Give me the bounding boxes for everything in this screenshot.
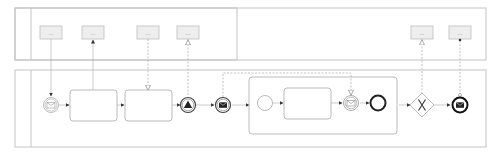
top-box-6[interactable]: ...	[449, 26, 471, 39]
message-end-event[interactable]	[453, 98, 468, 113]
sequence-flows	[59, 103, 450, 105]
subprocess[interactable]	[249, 77, 397, 134]
message-flows	[51, 39, 460, 97]
filled-envelope-icon	[219, 102, 227, 108]
svg-text:...: ...	[458, 30, 463, 36]
signal-throw-event[interactable]	[181, 98, 196, 113]
top-box-2[interactable]: ...	[82, 26, 104, 39]
svg-text:...: ...	[91, 30, 96, 36]
message-catch-event[interactable]	[344, 96, 359, 111]
subprocess-task[interactable]	[284, 88, 331, 119]
svg-text:...: ...	[146, 30, 151, 36]
top-box-4[interactable]: ...	[177, 26, 199, 39]
top-pool: ... ... ... ... ... ...	[15, 8, 486, 60]
task-1[interactable]	[70, 90, 117, 121]
top-box-5[interactable]: ...	[411, 26, 433, 39]
message-start-event[interactable]	[44, 98, 59, 113]
filled-envelope-icon	[456, 102, 464, 108]
exclusive-gateway[interactable]	[410, 93, 434, 117]
message-throw-event[interactable]	[216, 98, 231, 113]
top-box-1[interactable]: ...	[40, 26, 62, 39]
subprocess-end-event[interactable]	[371, 96, 386, 111]
svg-text:...: ...	[420, 30, 425, 36]
envelope-icon	[347, 101, 355, 107]
top-box-3[interactable]: ...	[137, 26, 159, 39]
envelope-icon	[47, 103, 55, 109]
svg-text:...: ...	[49, 30, 54, 36]
bpmn-diagram: ... ... ... ... ... ...	[0, 0, 502, 152]
svg-text:...: ...	[186, 30, 191, 36]
task-2[interactable]	[125, 90, 172, 121]
subprocess-start-event[interactable]	[258, 96, 273, 111]
